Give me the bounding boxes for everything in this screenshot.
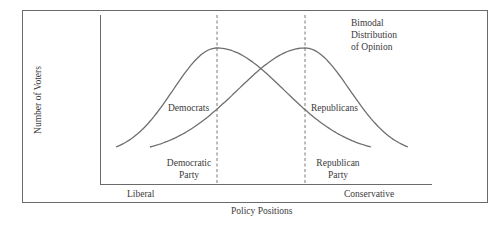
democratic-party-label-line-1: Democratic: [163, 157, 215, 169]
democrats-curve-label: Democrats: [168, 102, 209, 114]
bimodal-distribution-diagram: [0, 0, 502, 235]
y-axis-label: Number of Voters: [32, 50, 44, 150]
x-axis-label: Policy Positions: [231, 205, 293, 217]
figure-frame: [23, 11, 488, 203]
liberal-label: Liberal: [127, 188, 154, 200]
diagram-title: Bimodal Distribution of Opinion: [351, 17, 397, 53]
conservative-label: Conservative: [344, 188, 394, 200]
republican-party-label-line-2: Party: [310, 169, 366, 181]
title-line-1: Bimodal: [351, 17, 397, 29]
republican-party-label: Republican Party: [310, 157, 366, 181]
democratic-party-label-line-2: Party: [163, 169, 215, 181]
republicans-curve-label: Republicans: [311, 102, 358, 114]
democratic-party-label: Democratic Party: [163, 157, 215, 181]
title-line-3: of Opinion: [351, 41, 397, 53]
title-line-2: Distribution: [351, 29, 397, 41]
republicans-curve: [150, 48, 408, 147]
democrats-curve: [116, 48, 371, 147]
republican-party-label-line-1: Republican: [310, 157, 366, 169]
